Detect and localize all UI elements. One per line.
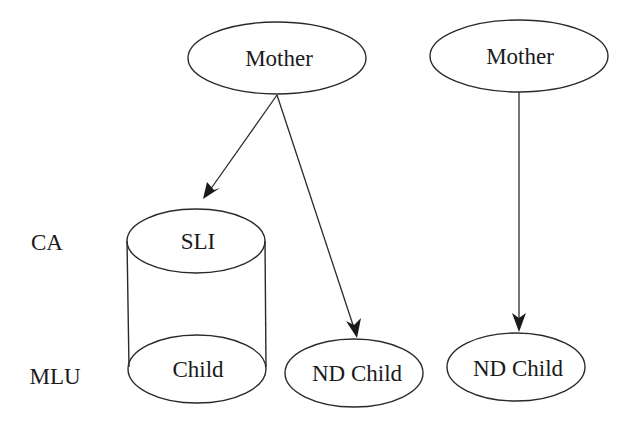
node-mother-1[interactable]: Mother — [188, 22, 366, 94]
cylinder-left-side — [127, 241, 129, 367]
node-mother-2[interactable]: Mother — [430, 20, 608, 92]
node-sli-cylinder[interactable]: SLI Child — [127, 209, 266, 403]
mother-2-label: Mother — [486, 44, 554, 69]
edge-mother-1-to-sli — [203, 95, 277, 199]
edge-mother-1-to-nd-child-1 — [277, 95, 361, 338]
sli-label: SLI — [181, 229, 216, 254]
arrowhead-icon — [203, 182, 220, 199]
nd-child-1-label: ND Child — [312, 361, 403, 386]
edge-mother-2-to-nd-child-2 — [512, 92, 526, 332]
row-label-ca: CA — [31, 230, 63, 255]
node-nd-child-1[interactable]: ND Child — [285, 339, 423, 407]
cylinder-right-side — [265, 241, 266, 367]
node-nd-child-2[interactable]: ND Child — [447, 333, 585, 401]
row-label-mlu: MLU — [29, 364, 81, 389]
mother-1-label: Mother — [245, 46, 313, 71]
diagram-canvas: CA MLU Mother Mother SLI Child ND Child … — [0, 0, 636, 422]
sli-child-label: Child — [172, 357, 224, 382]
nd-child-2-label: ND Child — [473, 356, 564, 381]
arrowhead-icon — [346, 318, 361, 338]
